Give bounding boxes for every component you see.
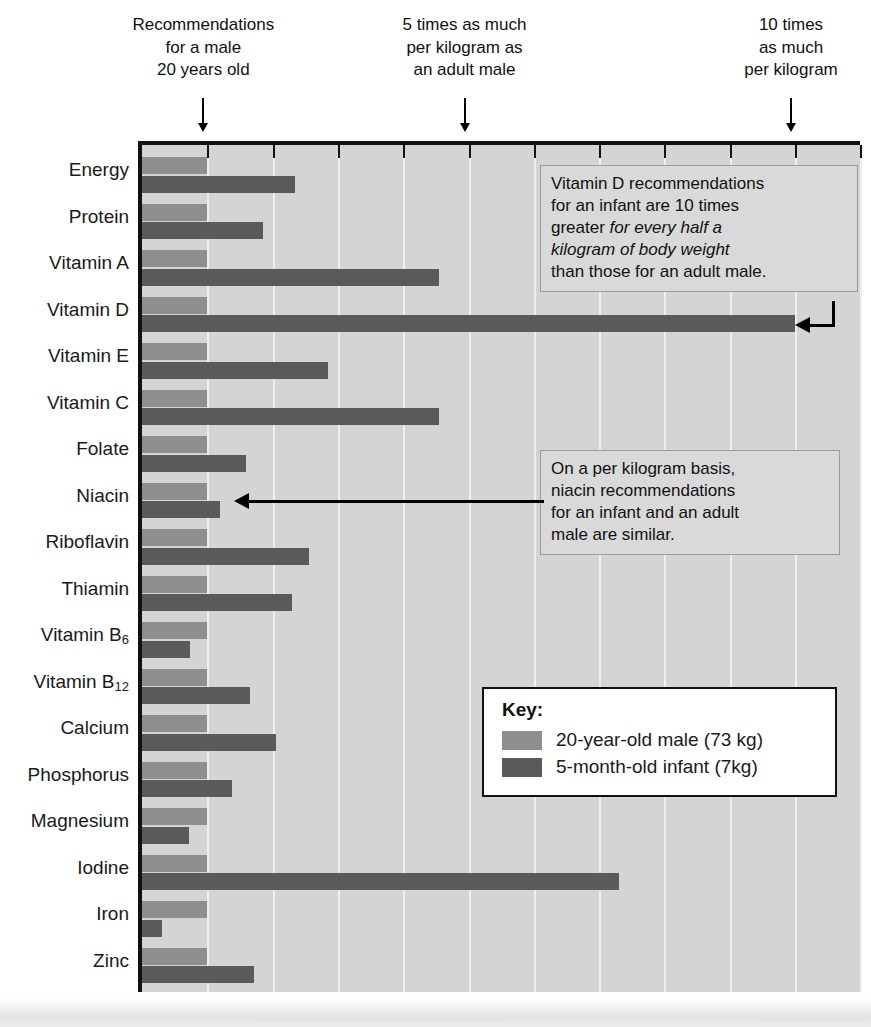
bar-adult-male — [142, 529, 207, 546]
axis-tick — [599, 145, 601, 158]
category-label: Iron — [96, 903, 129, 925]
top-annotation-line: 5 times as much — [315, 14, 615, 37]
callout-text: for an infant and an adult — [551, 503, 739, 522]
top-annotation-line: Recommendations — [53, 14, 353, 37]
callout-line: kilogram of body weight — [551, 239, 848, 261]
callout-leader-line — [810, 324, 835, 327]
callout-text: kilogram of body weight — [551, 240, 730, 259]
callout-text: On a per kilogram basis, — [551, 459, 735, 478]
down-arrow-icon — [464, 98, 466, 124]
category-label: Thiamin — [61, 578, 129, 600]
category-label: Vitamin C — [47, 392, 129, 414]
legend-entry: 5-month-old infant (7kg) — [502, 756, 835, 778]
category-label: Protein — [69, 206, 129, 228]
axis-tick — [534, 145, 536, 158]
top-annotation-3: 10 timesas muchper kilogram — [641, 14, 871, 82]
category-label: Phosphorus — [28, 764, 129, 786]
legend-title: Key: — [502, 699, 835, 721]
bar-infant — [142, 641, 190, 658]
bar-adult-male — [142, 948, 207, 965]
bar-infant — [142, 501, 220, 518]
legend-entry: 20-year-old male (73 kg) — [502, 729, 835, 751]
category-label: Magnesium — [31, 810, 129, 832]
callout-text: for an infant are 10 times — [551, 196, 739, 215]
category-label: Vitamin B6 — [41, 624, 129, 647]
bar-adult-male — [142, 436, 207, 453]
bar-adult-male — [142, 669, 207, 686]
top-annotation-line: an adult male — [315, 59, 615, 82]
chart-legend: Key: 20-year-old male (73 kg)5-month-old… — [482, 687, 837, 797]
down-arrow-icon — [790, 98, 792, 124]
bar-adult-male — [142, 343, 207, 360]
gridline — [469, 145, 471, 992]
callout-line: for an infant and an adult — [551, 502, 830, 524]
bar-infant — [142, 176, 295, 193]
category-label: Energy — [69, 159, 129, 181]
gridline — [860, 145, 862, 992]
legend-swatch — [502, 731, 542, 750]
bar-adult-male — [142, 715, 207, 732]
top-annotation-line: per kilogram as — [315, 37, 615, 60]
top-annotation-line: for a male — [53, 37, 353, 60]
bar-adult-male — [142, 762, 207, 779]
top-annotation-line: as much — [641, 37, 871, 60]
axis-tick — [207, 145, 209, 158]
category-label: Niacin — [76, 485, 129, 507]
axis-tick — [273, 145, 275, 158]
bar-adult-male — [142, 297, 207, 314]
bar-infant — [142, 594, 292, 611]
callout-text: male are similar. — [551, 525, 675, 544]
axis-tick — [338, 145, 340, 158]
bar-adult-male — [142, 622, 207, 639]
bar-infant — [142, 455, 246, 472]
axis-tick — [403, 145, 405, 158]
bar-adult-male — [142, 901, 207, 918]
category-label: Vitamin E — [48, 345, 129, 367]
callout-line: Vitamin D recommendations — [551, 173, 848, 195]
axis-tick — [795, 145, 797, 158]
page-bottom-strip — [0, 997, 871, 1027]
axis-tick — [469, 145, 471, 158]
callout-leader-line — [249, 500, 544, 503]
niacin-callout: On a per kilogram basis,niacin recommend… — [540, 450, 840, 555]
callout-text: Vitamin D recommendations — [551, 174, 764, 193]
bar-adult-male — [142, 390, 207, 407]
bar-infant — [142, 920, 162, 937]
bar-infant — [142, 315, 795, 332]
bar-infant — [142, 827, 189, 844]
category-label: Vitamin A — [49, 252, 129, 274]
top-annotation-line: 10 times — [641, 14, 871, 37]
callout-line: than those for an adult male. — [551, 261, 848, 283]
bar-adult-male — [142, 250, 207, 267]
bar-adult-male — [142, 204, 207, 221]
bar-infant — [142, 269, 439, 286]
down-arrow-icon — [202, 98, 204, 124]
bar-infant — [142, 780, 232, 797]
callout-line: male are similar. — [551, 524, 830, 546]
bar-adult-male — [142, 808, 207, 825]
bar-infant — [142, 222, 263, 239]
bar-infant — [142, 687, 250, 704]
callout-text: for every half a — [610, 218, 722, 237]
top-annotation-line: per kilogram — [641, 59, 871, 82]
category-label: Calcium — [60, 717, 129, 739]
category-label: Iodine — [77, 857, 129, 879]
category-label: Vitamin B12 — [34, 671, 129, 694]
axis-tick — [664, 145, 666, 158]
bar-adult-male — [142, 157, 207, 174]
callout-text: than those for an adult male. — [551, 262, 766, 281]
callout-line: On a per kilogram basis, — [551, 458, 830, 480]
category-label: Zinc — [93, 950, 129, 972]
legend-label: 5-month-old infant (7kg) — [556, 756, 758, 778]
callout-line: for an infant are 10 times — [551, 195, 848, 217]
bar-adult-male — [142, 576, 207, 593]
top-annotation-1: Recommendationsfor a male20 years old — [53, 14, 353, 82]
bar-infant — [142, 408, 439, 425]
chart-plot-area: Vitamin D recommendationsfor an infant a… — [138, 141, 860, 992]
bar-adult-male — [142, 855, 207, 872]
category-label: Vitamin D — [47, 299, 129, 321]
top-annotation-line: 20 years old — [53, 59, 353, 82]
bar-infant — [142, 734, 276, 751]
legend-swatch — [502, 758, 542, 777]
category-label: Folate — [76, 438, 129, 460]
